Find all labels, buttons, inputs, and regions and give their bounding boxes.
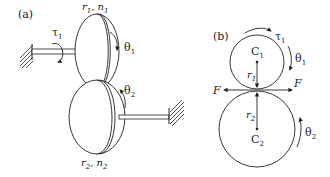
panel-b: (b) τ1 θ1 C1 r1 r2 C2 F F θ2 [212,28,316,167]
panel-b-theta2-label: θ2 [305,126,316,141]
gear-diagram-figure: (a) τ1 r1, n1 θ1 [0,0,330,177]
panel-b-label: (b) [213,30,229,43]
shaft-2 [119,115,169,119]
panel-a: (a) τ1 r1, n1 θ1 [18,1,184,171]
gear-2-label: r2, n2 [81,157,108,171]
panel-a-theta1-label: θ1 [124,41,135,56]
fixed-wall-2-icon [169,100,184,126]
radius-1-label: r1 [247,69,256,83]
center-2-label: C2 [251,133,264,148]
force-left-label: F [212,84,221,97]
gear-1-label: r1, n1 [82,1,109,15]
theta-1-arrow-icon-b [288,46,291,70]
force-right-label: F [293,77,302,90]
diagram-svg: (a) τ1 r1, n1 θ1 [0,0,330,177]
gear-2 [69,80,125,154]
center-2-point [256,128,259,131]
panel-b-theta1-label: θ1 [295,52,306,67]
gear-1 [75,14,119,88]
torque-1-arrow-icon-b [245,28,271,33]
panel-b-torque-label: τ1 [275,30,286,45]
center-1-label: C1 [251,45,264,60]
panel-a-label: (a) [18,8,33,21]
theta-2-arrow-icon-b [297,118,301,147]
panel-a-theta2-label: θ2 [124,84,135,99]
radius-2-label: r2 [246,109,256,123]
fixed-wall-1-icon [20,44,33,68]
panel-a-torque-label: τ1 [52,26,63,41]
